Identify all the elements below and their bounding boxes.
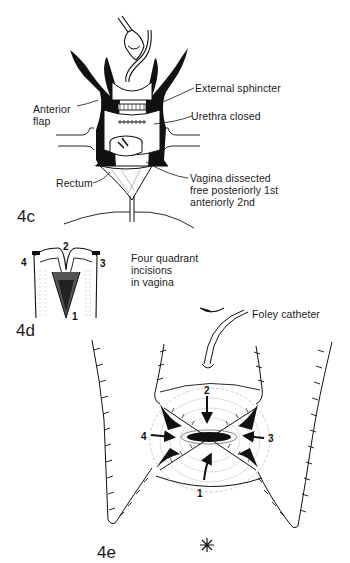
label-foley-catheter: Foley catheter <box>252 308 320 320</box>
caption-4d-line3: in vagina <box>131 276 174 288</box>
label-anterior-flap-line2: flap <box>33 115 50 127</box>
quadrant-number-4-4e: 4 <box>141 431 147 442</box>
label-vagina-line2: free posteriorly 1st <box>190 184 278 196</box>
caption-4d-line1: Four quadrant <box>131 252 198 264</box>
line-art-drawing <box>0 0 350 563</box>
surgical-illustration-figure: External sphincter Anterior flap Urethra… <box>0 0 350 563</box>
quadrant-number-1-4e: 1 <box>197 488 203 499</box>
figure-label-4d: 4d <box>16 321 35 341</box>
label-rectum: Rectum <box>56 177 93 189</box>
quadrant-number-3-4d: 3 <box>100 258 106 269</box>
caption-4d-line2: incisions <box>131 264 172 276</box>
quadrant-number-4-4d: 4 <box>21 257 27 268</box>
label-vagina-line3: anteriorly 2nd <box>190 196 255 208</box>
label-urethra-closed: Urethra closed <box>191 110 261 122</box>
quadrant-number-3-4e: 3 <box>268 433 274 444</box>
quadrant-number-2-4e: 2 <box>204 385 210 396</box>
label-vagina-line1: Vagina dissected <box>190 172 271 184</box>
figure-label-4e: 4e <box>97 543 116 563</box>
figure-4d-drawing <box>32 248 100 318</box>
figure-4e-drawing <box>92 308 332 552</box>
quadrant-number-1-4d: 1 <box>72 311 78 322</box>
label-anterior-flap-line1: Anterior <box>33 103 71 115</box>
figure-4c-drawing <box>56 16 200 228</box>
figure-label-4c: 4c <box>17 207 35 227</box>
quadrant-number-2-4d: 2 <box>63 241 69 252</box>
label-external-sphincter: External sphincter <box>195 82 281 94</box>
